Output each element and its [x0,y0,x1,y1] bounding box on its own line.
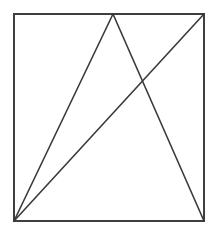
geometry-diagram [0,0,217,229]
figure-container [0,0,217,229]
